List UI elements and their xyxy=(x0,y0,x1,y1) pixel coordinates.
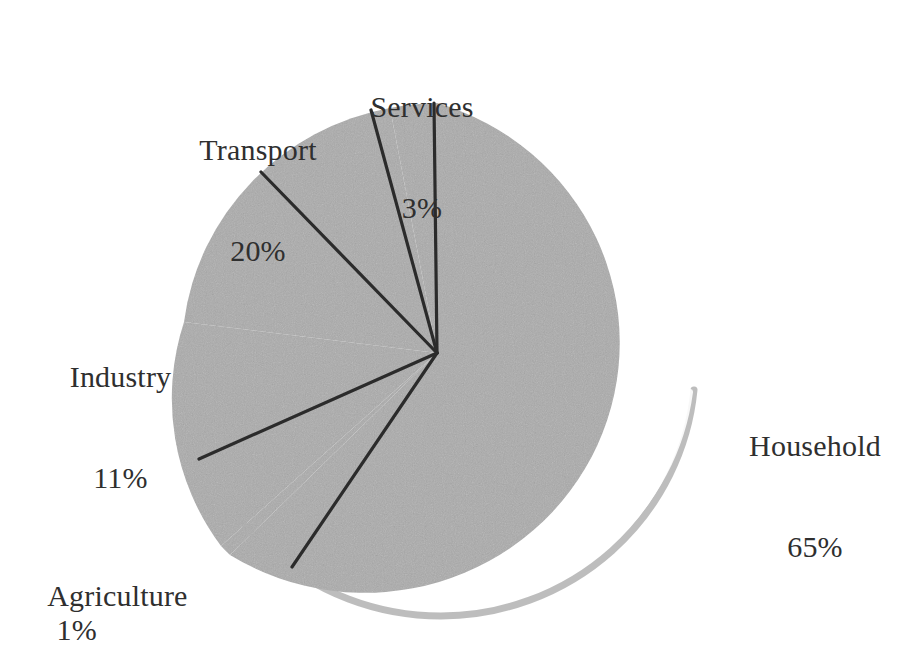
pie-label-household-name: Household xyxy=(712,429,918,463)
pie-label-transport-name: Transport xyxy=(158,133,358,167)
pie-label-industry-name: Industry xyxy=(28,360,213,394)
pie-label-industry: Industry 11% xyxy=(28,292,213,563)
pie-label-agriculture-value: 1% xyxy=(49,613,97,646)
pie-chart-figure: Services 3% Transport 20% Industry 11% A… xyxy=(0,0,918,650)
pie-label-industry-value: 11% xyxy=(28,461,213,495)
pie-label-household-value: 65% xyxy=(712,530,918,564)
pie-label-agriculture: Agriculture 1% xyxy=(18,545,298,650)
pie-label-agriculture-name: Agriculture xyxy=(47,579,187,612)
pie-label-household: Household 65% xyxy=(712,361,918,632)
pie-label-transport-value: 20% xyxy=(158,234,358,268)
